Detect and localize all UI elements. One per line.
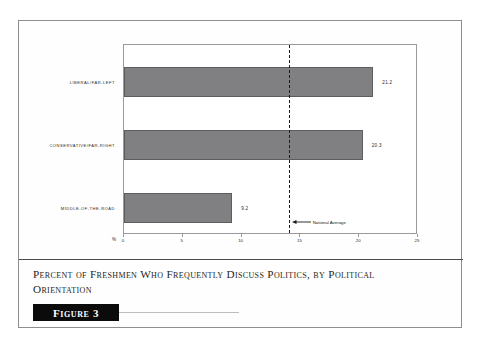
- x-axis-tick-label: 15: [297, 238, 302, 243]
- x-axis: % 0510152025: [123, 234, 417, 258]
- x-axis-tick: [182, 234, 183, 237]
- national-average-reference-line: [289, 45, 290, 233]
- x-axis-tick: [241, 234, 242, 237]
- national-average-label: National Average: [313, 220, 346, 225]
- x-axis-tick-label: 20: [356, 238, 361, 243]
- x-axis-tick: [123, 234, 124, 237]
- bar-row: MIDDLE-OF-THE-ROAD 9.2: [124, 193, 416, 223]
- x-axis-tick-label: 10: [238, 238, 243, 243]
- bar-middle-of-the-road: [124, 193, 232, 223]
- x-axis-tick: [417, 234, 418, 237]
- figure-frame: LIBERAL/FAR-LEFT 21.2 CONSERVATIVE/FAR-R…: [18, 20, 462, 328]
- bar-liberal-far-left: [124, 67, 373, 97]
- category-label-middle-of-the-road: MIDDLE-OF-THE-ROAD: [61, 206, 115, 211]
- banner-rule: [119, 312, 239, 313]
- x-axis-tick: [358, 234, 359, 237]
- bar-row: CONSERVATIVE/FAR-RIGHT 20.3: [124, 130, 416, 160]
- bar-value-middle-of-the-road: 9.2: [241, 206, 248, 211]
- bar-row: LIBERAL/FAR-LEFT 21.2: [124, 67, 416, 97]
- bar-value-conservative-far-right: 20.3: [372, 143, 382, 148]
- plot-area: LIBERAL/FAR-LEFT 21.2 CONSERVATIVE/FAR-R…: [123, 44, 417, 234]
- x-axis-tick: [299, 234, 300, 237]
- x-axis-tick-label: 0: [122, 238, 124, 243]
- x-axis-tick-label: 25: [415, 238, 420, 243]
- bar-value-liberal-far-left: 21.2: [382, 80, 392, 85]
- left-arrow-icon: [292, 219, 311, 225]
- caption-block: Percent of Freshmen Who Frequently Discu…: [19, 259, 463, 329]
- x-axis-unit-label: %: [112, 237, 116, 242]
- figure-caption: Percent of Freshmen Who Frequently Discu…: [33, 267, 433, 297]
- national-average-annotation: National Average: [292, 219, 346, 225]
- figure-number-banner: Figure 3: [33, 304, 119, 321]
- figure-number-label: Figure 3: [53, 307, 99, 319]
- x-axis-tick-label: 5: [181, 238, 183, 243]
- chart-region: LIBERAL/FAR-LEFT 21.2 CONSERVATIVE/FAR-R…: [19, 21, 463, 259]
- category-label-liberal-far-left: LIBERAL/FAR-LEFT: [70, 80, 115, 85]
- category-label-conservative-far-right: CONSERVATIVE/FAR-RIGHT: [49, 143, 115, 148]
- bar-conservative-far-right: [124, 130, 363, 160]
